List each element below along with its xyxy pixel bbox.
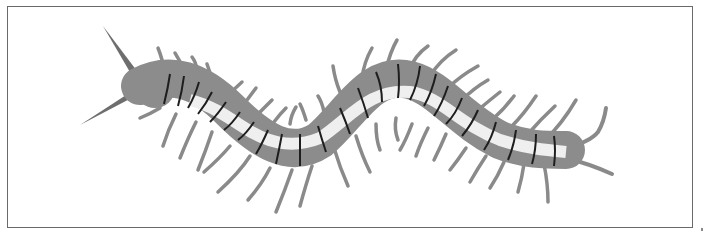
centipede-illustration bbox=[0, 0, 706, 235]
scan-speck bbox=[701, 228, 703, 231]
